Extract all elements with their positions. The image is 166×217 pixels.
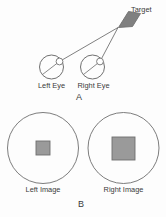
right-eye-pupil-icon (97, 58, 104, 65)
figure-canvas: Target Left Eye Right Eye A Left Image R… (0, 0, 166, 217)
right-image-square (112, 137, 135, 160)
target-label: Target (131, 5, 152, 14)
panel-a-letter: A (76, 92, 82, 102)
panel-b-letter: B (78, 199, 84, 209)
left-image-label: Left Image (26, 185, 61, 194)
binocular-vision-figure: Target Left Eye Right Eye A Left Image R… (0, 0, 166, 217)
left-eye-pupil-icon (56, 58, 63, 65)
right-image-label: Right Image (104, 185, 144, 194)
left-image-square (36, 141, 50, 155)
left-eye-label: Left Eye (38, 81, 65, 90)
right-eye-label: Right Eye (77, 81, 109, 90)
